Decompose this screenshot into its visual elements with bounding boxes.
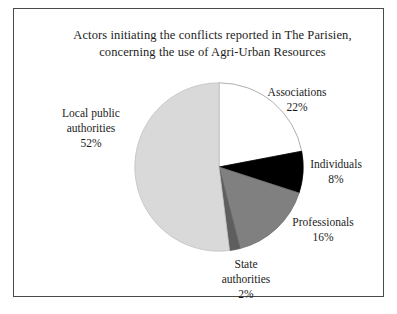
- slice-label-state-authorities-name-line-2: authorities: [200, 272, 292, 287]
- pie-chart-figure: Actors initiating the conflicts reported…: [0, 0, 397, 314]
- pie-slice-local-public-authorities: [135, 83, 230, 251]
- slice-label-local-public-authorities-name-line-2: authorities: [36, 121, 146, 136]
- slice-label-individuals-value: 8%: [286, 172, 386, 187]
- slice-label-professionals-value: 16%: [268, 230, 378, 245]
- slice-label-state-authorities-value: 2%: [200, 287, 292, 302]
- slice-label-local-public-authorities: Local public authorities 52%: [36, 106, 146, 151]
- chart-title-line-2: concerning the use of Agri-Urban Resourc…: [44, 44, 381, 61]
- figure-frame: Actors initiating the conflicts reported…: [13, 8, 384, 297]
- slice-label-professionals: Professionals 16%: [268, 215, 378, 245]
- slice-label-local-public-authorities-name-line-1: Local public: [36, 106, 146, 121]
- chart-title-line-1: Actors initiating the conflicts reported…: [44, 27, 381, 44]
- slice-label-professionals-name: Professionals: [268, 215, 378, 230]
- slice-label-associations-name: Associations: [242, 85, 352, 100]
- chart-title: Actors initiating the conflicts reported…: [44, 27, 381, 61]
- slice-label-associations: Associations 22%: [242, 85, 352, 115]
- slice-label-individuals-name: Individuals: [286, 157, 386, 172]
- slice-label-individuals: Individuals 8%: [286, 157, 386, 187]
- slice-label-local-public-authorities-value: 52%: [36, 136, 146, 151]
- slice-label-state-authorities-name-line-1: State: [200, 257, 292, 272]
- slice-label-associations-value: 22%: [242, 100, 352, 115]
- slice-label-state-authorities: State authorities 2%: [200, 257, 292, 302]
